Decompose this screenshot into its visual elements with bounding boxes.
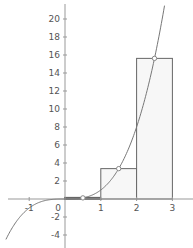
x-tick-labels: -10123 [25, 203, 176, 213]
riemann-sum-chart: -10123 -4-22468101214161820 [0, 0, 193, 248]
y-tick-label: 4 [54, 158, 60, 168]
y-tick-label: 10 [49, 104, 61, 114]
riemann-rectangle [101, 169, 137, 199]
x-tick-label: 3 [170, 203, 176, 213]
midpoint-rectangles [65, 58, 172, 199]
midpoint-marker [152, 56, 156, 60]
y-tick-label: -4 [51, 230, 60, 240]
y-tick-label: 20 [49, 14, 61, 24]
x-tick-label: -1 [25, 203, 34, 213]
x-tick-label: 1 [98, 203, 104, 213]
midpoint-marker [117, 166, 121, 170]
riemann-rectangle [137, 58, 173, 199]
x-tick-label: 2 [134, 203, 140, 213]
y-tick-label: 12 [49, 86, 60, 96]
y-tick-label: 6 [54, 140, 60, 150]
y-tick-label: -2 [51, 212, 60, 222]
y-tick-label: 8 [54, 122, 60, 132]
y-tick-label: 14 [49, 68, 61, 78]
y-tick-label: 18 [49, 32, 61, 42]
y-tick-label: 2 [54, 176, 60, 186]
midpoint-marker [81, 196, 85, 200]
y-tick-label: 16 [49, 50, 61, 60]
